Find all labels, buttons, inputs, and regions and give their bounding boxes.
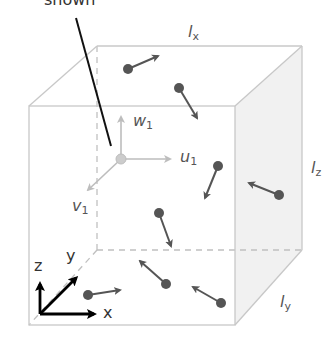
lz-label: lz	[311, 160, 321, 178]
v1-label: v1	[72, 198, 88, 216]
lx-label: lx	[188, 24, 199, 42]
particle	[216, 298, 226, 308]
particle	[213, 161, 223, 171]
velocity-components	[88, 117, 170, 190]
z-axis-label: z	[34, 258, 42, 274]
u1-label: u1	[180, 149, 197, 167]
ly-label: ly	[280, 294, 291, 312]
x-axis-label: x	[103, 305, 112, 321]
v1-arrow	[88, 159, 121, 190]
box-diagram	[0, 0, 333, 340]
origin-particle	[116, 154, 126, 164]
y-axis-label: y	[66, 248, 75, 264]
w1-label: w1	[133, 113, 153, 131]
particle	[161, 279, 171, 289]
particle	[154, 208, 164, 218]
particle	[274, 190, 284, 200]
particle	[174, 83, 184, 93]
y-axis-arrow	[40, 278, 76, 314]
caption-fragment: shown	[44, 0, 96, 8]
particle	[83, 290, 93, 300]
pointer-line	[76, 18, 111, 146]
side-face	[235, 46, 302, 325]
particle	[123, 64, 133, 74]
